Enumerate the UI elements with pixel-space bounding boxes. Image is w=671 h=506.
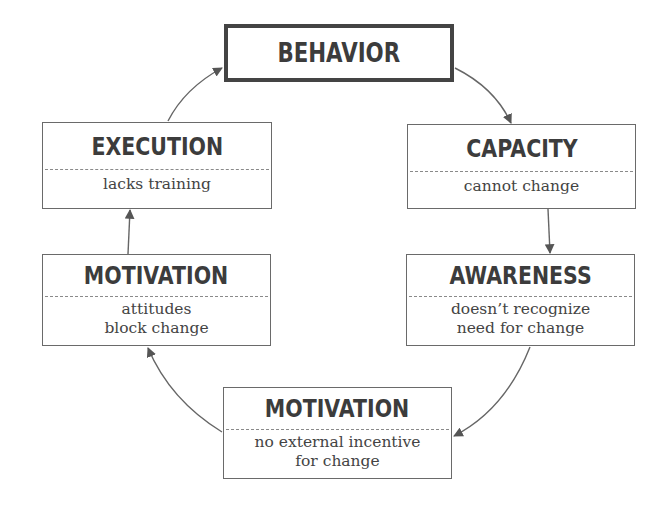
node-execution: EXECUTION lacks training — [42, 122, 272, 209]
node-title: CAPACITY — [466, 136, 577, 161]
arrow-motivation-attitudes-to-execution — [128, 210, 130, 254]
node-title: MOTIVATION — [265, 396, 409, 421]
node-capacity: CAPACITY cannot change — [407, 124, 636, 209]
node-motivation-attitudes: MOTIVATION attitudes block change — [42, 254, 271, 346]
node-description: doesn’t recognize need for change — [407, 297, 634, 338]
node-description: lacks training — [43, 170, 271, 194]
behavior-cycle-diagram: BEHAVIOR CAPACITY cannot change AWARENES… — [0, 0, 671, 506]
node-title: MOTIVATION — [84, 263, 228, 288]
node-description: cannot change — [408, 172, 635, 196]
arrow-execution-to-behavior — [168, 68, 222, 121]
node-title: BEHAVIOR — [278, 40, 401, 66]
node-description: attitudes block change — [43, 297, 270, 338]
arrow-behavior-to-capacity — [455, 68, 511, 123]
node-title: AWARENESS — [449, 263, 591, 288]
node-motivation-external: MOTIVATION no external incentive for cha… — [223, 387, 452, 479]
node-awareness: AWARENESS doesn’t recognize need for cha… — [406, 254, 635, 346]
arrow-capacity-to-awareness — [548, 209, 550, 253]
node-title: EXECUTION — [91, 134, 223, 159]
node-behavior: BEHAVIOR — [224, 24, 454, 82]
arrow-awareness-to-motivation-external — [454, 347, 530, 436]
arrow-motivation-external-to-motivation-attitudes — [148, 348, 222, 432]
node-description: no external incentive for change — [224, 430, 451, 471]
